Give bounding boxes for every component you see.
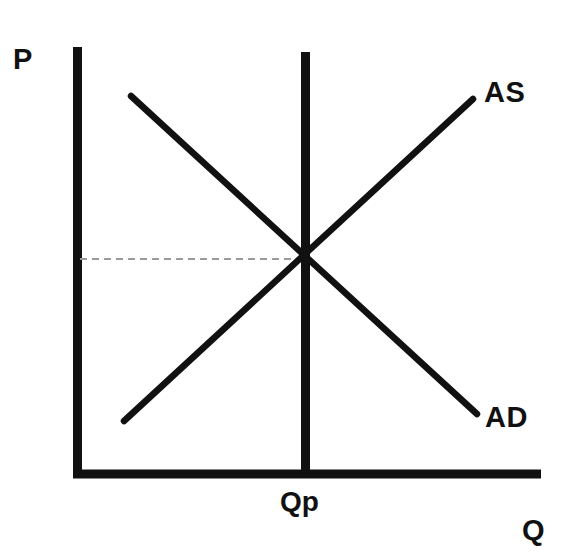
aggregate-supply-curve-label: AS bbox=[484, 78, 525, 107]
y-axis-label: P bbox=[13, 45, 33, 74]
x-axis-tick-label-qp: Qp bbox=[280, 488, 319, 516]
x-axis-label: Q bbox=[522, 516, 545, 545]
diagram-canvas: P Q AS AD Qp bbox=[0, 0, 569, 560]
aggregate-demand-curve-label: AD bbox=[485, 403, 528, 432]
